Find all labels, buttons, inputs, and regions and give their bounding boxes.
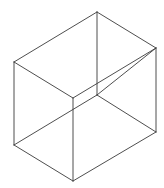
- edge-bottom-left-to-bottom-front: [14, 145, 73, 181]
- edge-bottom-front-to-bottom-right: [73, 132, 156, 181]
- edge-top-back-to-top-left: [14, 12, 97, 62]
- edge-top-front-to-top-right: [73, 48, 156, 98]
- wireframe-box-diagram: [0, 0, 164, 188]
- box-edges: [14, 12, 156, 181]
- edge-bottom-back-to-bottom-right: [97, 95, 156, 132]
- edge-bottom-back-to-bottom-left: [14, 95, 97, 145]
- edge-top-right-to-bottom-back: [97, 48, 156, 95]
- edge-top-back-to-top-right: [97, 12, 156, 48]
- edge-top-left-to-top-front: [14, 62, 73, 98]
